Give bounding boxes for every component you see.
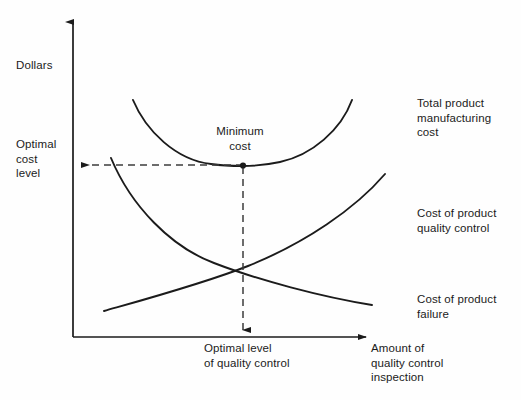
minimum-cost-label: Minimum cost (196, 124, 284, 153)
minimum-cost-point (240, 162, 246, 168)
curve-label-cost-of-product-quality-control: Cost of product quality control (417, 206, 496, 235)
curve-cost-of-product-quality-control (104, 174, 385, 311)
y-axis-label: Dollars (16, 58, 53, 73)
curve-label-total-product-manufacturing-cost: Total product manufacturing cost (417, 96, 491, 140)
curve-cost-of-product-failure (111, 158, 372, 305)
figure-canvas: Dollars Optimal cost level Minimum cost … (0, 0, 521, 400)
x-axis-label: Amount of quality control inspection (371, 341, 443, 385)
curve-label-cost-of-product-failure: Cost of product failure (417, 292, 496, 321)
chart-graphic (0, 0, 521, 400)
optimal-cost-level-label: Optimal cost level (16, 137, 56, 181)
optimal-level-of-quality-control-label: Optimal level of quality control (204, 341, 290, 370)
